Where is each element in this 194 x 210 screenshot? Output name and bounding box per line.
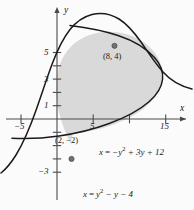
eqn1-rhs-b: + 3y + 12 [128,147,164,157]
y-tick-label-1: 1 [44,101,49,110]
y-axis-label: y [64,6,68,16]
x-tick-label-15: 15 [160,122,169,131]
eqn2-exp: 2 [100,187,103,194]
x-tick-label--5: −5 [14,122,25,131]
equation-label-left-opening-parabola: x=−y2 + 3y + 12 [99,148,164,157]
eqn2-eq: = [89,189,94,199]
eqn2-rhs-b: − y − 4 [106,189,133,199]
y-tick-label-3: 3 [44,75,49,84]
point-label-lower-intersection: (2, −2) [55,136,78,145]
equation-label-right-opening-parabola: x=y2 − y − 4 [83,190,133,199]
point-label-upper-intersection: (8, 4) [103,52,121,61]
x-axis-label: x [180,104,184,114]
eqn1-rhs-a: −y [112,147,122,157]
y-tick-label--3: −3 [38,167,49,176]
graph-figure: y x −5 5 15 5 3 1 −3 (8, 4) (2, −2) x=−y… [0,0,194,210]
point-dot-upper [112,43,117,48]
eqn1-eq: = [105,147,110,157]
eqn1-exp: 2 [122,145,125,152]
x-tick-label-5: 5 [90,122,95,131]
point-dot-lower [69,156,74,161]
y-tick-label-5: 5 [44,48,49,57]
eqn1-lhs: x [99,147,103,157]
eqn2-lhs: x [83,189,87,199]
graph-canvas [0,0,194,210]
